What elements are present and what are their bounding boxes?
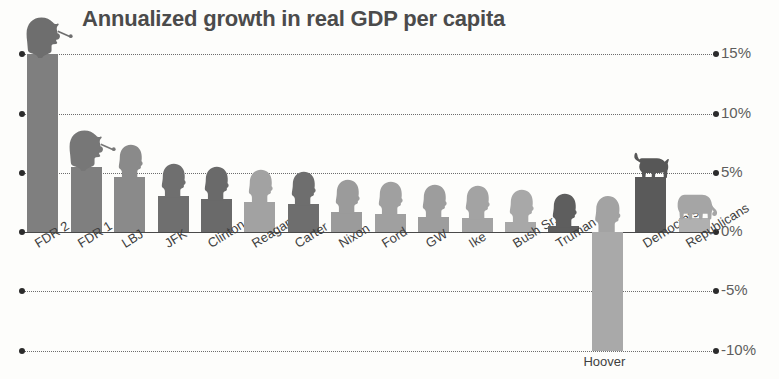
x-axis-label-hoover: Hoover — [583, 354, 625, 369]
y-axis-tick-label: 10% — [721, 104, 771, 121]
bar-jfk[interactable] — [158, 196, 189, 232]
president-head-silhouette-icon — [286, 169, 320, 207]
axis-tick-dot — [19, 348, 25, 354]
president-head-silhouette-icon — [330, 177, 364, 215]
y-axis-tick-label: -10% — [721, 341, 771, 358]
gridline-neg10 — [22, 351, 716, 352]
axis-tick-dot — [19, 288, 25, 294]
axis-tick-dot — [19, 229, 25, 235]
president-head-silhouette-icon — [373, 179, 407, 217]
bar-lbj[interactable] — [114, 177, 145, 232]
axis-tick-dot — [19, 51, 25, 57]
fdr-silhouette-icon — [21, 15, 73, 58]
president-head-silhouette-icon — [113, 142, 147, 180]
axis-tick-dot — [713, 111, 719, 117]
president-head-silhouette-icon — [417, 182, 451, 220]
gridline-10 — [22, 114, 716, 115]
axis-tick-dot — [19, 170, 25, 176]
gridline-15 — [22, 54, 716, 55]
bar-fdr-1[interactable] — [71, 167, 102, 232]
axis-tick-dot — [713, 288, 719, 294]
gdp-growth-chart: Annualized growth in real GDP per capita… — [0, 0, 779, 379]
axis-tick-dot — [713, 51, 719, 57]
y-axis-tick-label: 15% — [721, 44, 771, 61]
axis-tick-dot — [713, 348, 719, 354]
bar-fdr-2[interactable] — [27, 54, 58, 232]
y-axis-tick-label: -5% — [721, 281, 771, 298]
gridline-5 — [22, 173, 716, 174]
president-head-silhouette-icon — [156, 161, 190, 199]
president-head-silhouette-icon — [199, 164, 233, 202]
president-head-silhouette-icon — [460, 183, 494, 221]
y-axis-tick-label: 5% — [721, 163, 771, 180]
bar-hoover[interactable] — [592, 232, 623, 351]
democratic-donkey-icon — [631, 152, 671, 179]
axis-tick-dot — [19, 111, 25, 117]
plot-area: 15%10%5%0%-5%-10%FDR 2FDR 1LBJJFKClinton… — [0, 0, 779, 379]
fdr-silhouette-icon — [64, 128, 116, 171]
axis-tick-dot — [713, 170, 719, 176]
president-head-silhouette-icon — [504, 187, 538, 225]
